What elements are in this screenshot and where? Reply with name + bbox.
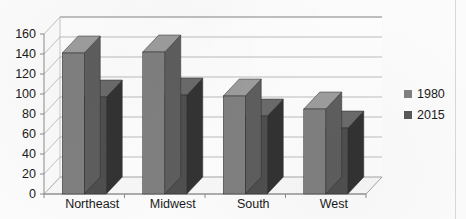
y-axis-tick-label: 20 (2, 168, 36, 181)
chart-plot-area (0, 0, 466, 219)
x-axis-category-label: South (208, 198, 298, 211)
x-axis-category-label: Midwest (128, 198, 218, 211)
legend-swatch-icon (404, 90, 412, 98)
legend-item-2015[interactable]: 2015 (404, 108, 445, 122)
y-axis-tick-label: 160 (2, 28, 36, 41)
legend-item-1980[interactable]: 1980 (404, 87, 445, 101)
y-axis-tick-label: 100 (2, 88, 36, 101)
y-axis-tick-label: 60 (2, 128, 36, 141)
y-axis-tick-label: 0 (2, 188, 36, 201)
y-axis-tick-label: 140 (2, 48, 36, 61)
x-axis-category-label: West (289, 198, 379, 211)
legend-swatch-icon (404, 111, 412, 119)
page-edge-line (455, 0, 456, 219)
x-axis-category-label: Northeast (47, 198, 137, 211)
y-axis-ticks (40, 34, 44, 194)
legend-label: 2015 (417, 108, 445, 122)
y-axis-tick-label: 120 (2, 68, 36, 81)
bar-chart: 020406080100120140160 NortheastMidwestSo… (0, 0, 466, 219)
y-axis-tick-label: 80 (2, 108, 36, 121)
y-axis-tick-label: 40 (2, 148, 36, 161)
legend-label: 1980 (417, 87, 445, 101)
